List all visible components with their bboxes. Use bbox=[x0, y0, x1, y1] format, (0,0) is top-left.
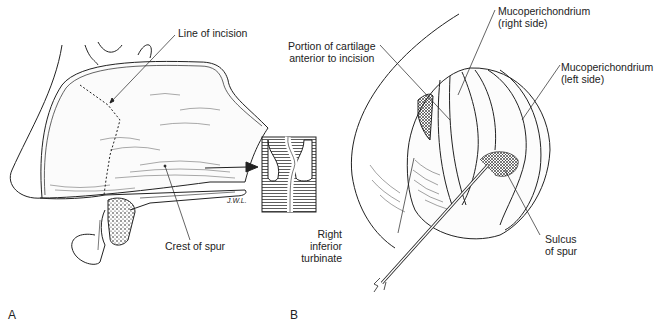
panel-label-b: B bbox=[290, 308, 298, 322]
label-turbinate-line3: turbinate bbox=[292, 252, 342, 264]
figure: Line of incision Crest of spur J.W.L. A … bbox=[0, 0, 658, 328]
label-sulcus-line1: Sulcus bbox=[545, 233, 577, 245]
panel-b-drawing bbox=[351, 10, 560, 292]
label-muco-right-line2: (right side) bbox=[498, 17, 590, 29]
label-muco-left-line2: (left side) bbox=[561, 73, 653, 85]
label-sulcus-line2: of spur bbox=[545, 245, 577, 257]
label-line-of-incision: Line of incision bbox=[178, 27, 247, 39]
label-sulcus-of-spur: Sulcus of spur bbox=[545, 233, 577, 257]
label-portion-of-cartilage: Portion of cartilage anterior to incisio… bbox=[288, 40, 376, 64]
panel-label-a: A bbox=[8, 308, 16, 322]
label-muco-right-line1: Mucoperichondrium bbox=[498, 5, 590, 17]
label-muco-left-line1: Mucoperichondrium bbox=[561, 61, 653, 73]
label-mucoperichondrium-left: Mucoperichondrium (left side) bbox=[561, 61, 653, 85]
panel-a-drawing bbox=[10, 35, 316, 264]
label-crest-of-spur: Crest of spur bbox=[165, 240, 225, 252]
label-portion-line2: anterior to incision bbox=[288, 52, 376, 64]
label-mucoperichondrium-right: Mucoperichondrium (right side) bbox=[498, 5, 590, 29]
label-right-inferior-turbinate: Right inferior turbinate bbox=[292, 228, 342, 264]
label-portion-line1: Portion of cartilage bbox=[288, 40, 376, 52]
artist-signature: J.W.L. bbox=[227, 195, 247, 207]
label-turbinate-line1: Right bbox=[292, 228, 342, 240]
label-turbinate-line2: inferior bbox=[292, 240, 342, 252]
